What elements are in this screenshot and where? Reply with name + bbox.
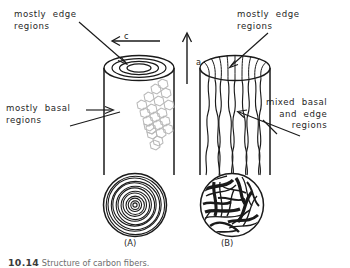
figure-number: 10.14 (8, 257, 39, 268)
cylinder-b-fibrils (206, 79, 262, 175)
axis-label-c: c (124, 31, 129, 41)
cylinder-a (104, 56, 174, 176)
cross-section-a (104, 174, 167, 237)
cylinder-a-hexagon-ribbon (137, 79, 174, 150)
label-basal-regions-a: mostly basal regions (6, 103, 70, 126)
leader-basal-regions-a (70, 107, 120, 127)
cylinder-b (200, 56, 270, 176)
figure-caption: 10.14 Structure of carbon fibers. (8, 257, 350, 268)
cross-section-b (200, 174, 264, 237)
c-axis-arrow (112, 37, 160, 46)
axis-label-a: a (196, 57, 201, 67)
label-edge-regions-a: mostly edge regions (14, 9, 77, 32)
a-axis-arrow (183, 33, 192, 84)
figure-caption-text: Structure of carbon fibers. (42, 258, 150, 268)
panel-label-a: (A) (124, 238, 136, 248)
leader-edge-regions-a (79, 22, 128, 65)
panel-label-b: (B) (221, 238, 233, 248)
label-edge-regions-b: mostly edge regions (237, 9, 300, 32)
label-mixed-regions-b: mixed basal and edge regions (266, 97, 327, 132)
